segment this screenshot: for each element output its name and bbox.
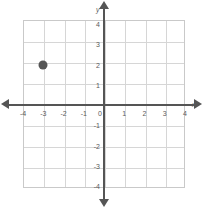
x-tick-label: 1 <box>122 110 126 117</box>
x-tick-label: -1 <box>81 110 87 117</box>
data-point-marker <box>39 60 48 69</box>
y-tick-label: -2 <box>90 142 100 149</box>
x-axis-left-arrow-icon <box>1 99 9 109</box>
y-tick-label: -4 <box>90 183 100 190</box>
coordinate-plane-figure: x y -4 -3 -2 -1 0 1 2 3 4 4 3 2 1 -1 -2 … <box>0 0 203 208</box>
y-tick-label: 2 <box>92 61 100 68</box>
x-axis-line <box>8 104 195 106</box>
y-axis-down-arrow-icon <box>99 199 109 207</box>
x-tick-label: 3 <box>163 110 167 117</box>
y-tick-label: -1 <box>90 122 100 129</box>
y-axis-line <box>103 8 105 200</box>
x-axis-label: x <box>192 101 196 108</box>
x-tick-label: -3 <box>40 110 46 117</box>
y-tick-label: 3 <box>92 41 100 48</box>
y-axis-up-arrow-icon <box>99 1 109 9</box>
y-tick-label: 4 <box>92 21 100 28</box>
x-tick-label: 4 <box>183 110 187 117</box>
y-tick-label: 1 <box>92 81 100 88</box>
x-tick-label-origin: 0 <box>98 110 102 117</box>
x-tick-label: -2 <box>60 110 66 117</box>
x-tick-label: -4 <box>20 110 26 117</box>
x-tick-label: 2 <box>143 110 147 117</box>
y-axis-label: y <box>96 6 100 13</box>
y-tick-label: -3 <box>90 162 100 169</box>
